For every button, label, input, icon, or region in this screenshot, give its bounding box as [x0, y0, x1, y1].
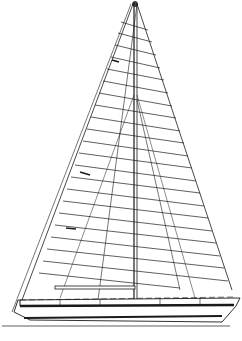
jib-leech: [137, 100, 180, 290]
sheer-stripe: [20, 305, 234, 306]
boom: [55, 286, 135, 289]
forestay: [137, 4, 232, 290]
batten: [112, 60, 119, 62]
sailboat-line-drawing: [0, 0, 242, 341]
mainsail-leech: [22, 4, 133, 300]
sail-plan-drawing: [0, 0, 242, 341]
inner-leech: [98, 4, 137, 300]
shroud: [60, 95, 134, 298]
